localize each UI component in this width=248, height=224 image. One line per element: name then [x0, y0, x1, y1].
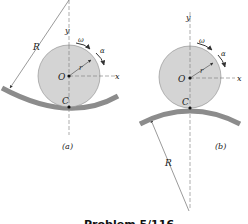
panel-label-a: (a)	[62, 142, 73, 151]
label-O-b: O	[178, 74, 186, 84]
label-x-b: x	[237, 74, 242, 83]
center-point-O-b	[188, 76, 191, 79]
figure-caption: Problem 5/116	[84, 218, 174, 224]
panel-b: y x ω α r O C R (b)	[140, 12, 242, 211]
panel-a: R y x ω α r O C (a)	[2, 0, 120, 151]
diagram-canvas: R y x ω α r O C (a) y x ω α r O	[0, 0, 248, 224]
label-C-b: C	[182, 97, 189, 107]
label-alpha-b: α	[221, 50, 226, 58]
panel-label-b: (b)	[215, 142, 226, 151]
label-O-a: O	[58, 72, 66, 82]
label-alpha-a: α	[100, 47, 105, 55]
label-omega-a: ω	[78, 36, 84, 44]
label-R-a: R	[32, 42, 40, 52]
label-omega-b: ω	[199, 37, 205, 45]
label-x-a: x	[115, 72, 120, 81]
label-y-b: y	[185, 13, 191, 22]
label-R-b: R	[164, 158, 172, 168]
label-C-a: C	[62, 96, 69, 106]
center-point-O-a	[67, 74, 70, 77]
label-y-a: y	[64, 26, 70, 35]
